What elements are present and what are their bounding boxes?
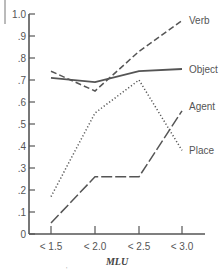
series-object-label: Object [189, 64, 218, 75]
x-tick-label: < 3.0 [171, 241, 194, 252]
y-tick-label: .7 [18, 75, 27, 86]
x-tick-label: < 1.5 [40, 241, 63, 252]
y-tick-label: .2 [18, 185, 27, 196]
line-chart: 0.1.2.3.4.5.6.7.8.91.0 < 1.5< 2.0< 2.5< … [0, 0, 222, 275]
series-verb-label: Verb [189, 15, 210, 26]
stray-mark: ' [66, 266, 67, 273]
series-agent-line [51, 111, 182, 223]
y-tick-label: .8 [18, 53, 27, 64]
y-tick-label: 0 [20, 229, 26, 240]
x-tick-label: < 2.0 [84, 241, 107, 252]
y-tick-label: .4 [18, 141, 27, 152]
series-place-label: Place [189, 145, 214, 156]
x-tick-label: < 2.5 [128, 241, 151, 252]
series-agent-label: Agent [189, 101, 215, 112]
x-axis-title: MLU [105, 256, 129, 267]
y-tick-label: .5 [18, 119, 27, 130]
series-layer: VerbObjectAgentPlace [51, 15, 218, 223]
y-tick-label: .1 [18, 207, 27, 218]
y-axis: 0.1.2.3.4.5.6.7.8.91.0 [12, 9, 35, 240]
y-tick-label: 1.0 [12, 9, 26, 20]
x-axis: < 1.5< 2.0< 2.5< 3.0 [29, 226, 205, 252]
y-tick-label: .3 [18, 163, 27, 174]
y-tick-label: .6 [18, 97, 27, 108]
series-place-line [51, 80, 182, 197]
y-tick-label: .9 [18, 31, 27, 42]
